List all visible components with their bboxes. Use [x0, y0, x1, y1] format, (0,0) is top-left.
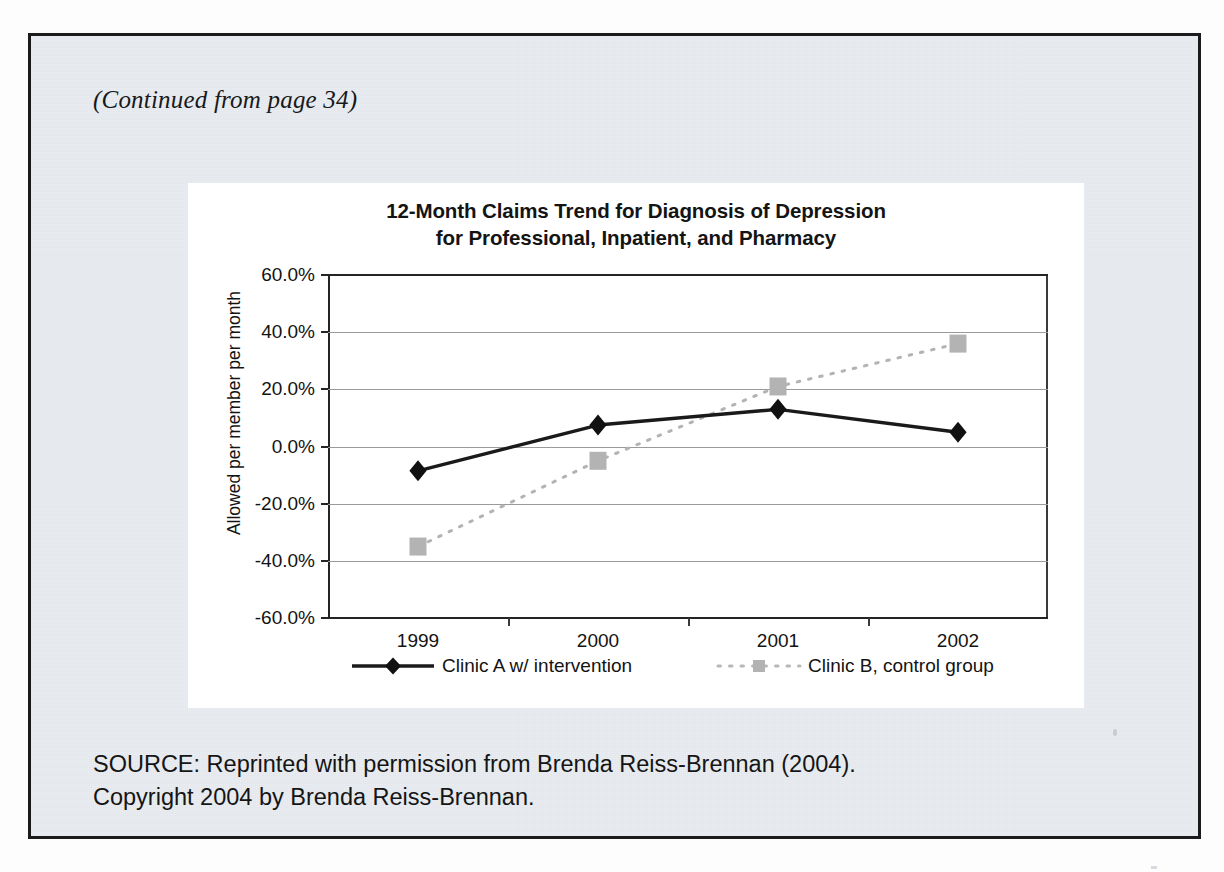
legend-key-square — [716, 655, 802, 677]
legend-label-clinic-a: Clinic A w/ intervention — [442, 655, 632, 677]
legend-entry-clinic-b: Clinic B, control group — [716, 653, 994, 679]
data-point-marker — [769, 399, 786, 420]
x-tick-label: 1999 — [397, 630, 439, 652]
x-tick-label: 2000 — [577, 630, 619, 652]
series-line — [418, 409, 958, 470]
x-tick-mark — [868, 618, 870, 626]
y-tick-mark — [321, 446, 328, 448]
legend-key-diamond — [350, 655, 436, 677]
legend-entry-clinic-a: Clinic A w/ intervention — [350, 653, 632, 679]
y-tick-mark — [321, 560, 328, 562]
series-clinic-a — [409, 399, 966, 481]
legend-label-clinic-b: Clinic B, control group — [808, 655, 994, 677]
y-axis-title: Allowed per member per month — [224, 263, 245, 563]
x-tick-mark — [688, 618, 690, 626]
continued-from-note: (Continued from page 34) — [93, 86, 357, 114]
y-tick-mark — [321, 617, 328, 619]
source-line-1: SOURCE: Reprinted with permission from B… — [93, 748, 1143, 781]
series-plot — [328, 275, 1048, 618]
data-point-marker — [770, 377, 787, 395]
chart-title-line-2: for Professional, Inpatient, and Pharmac… — [188, 224, 1084, 251]
source-line-2: Copyright 2004 by Brenda Reiss-Brennan. — [93, 781, 1143, 814]
y-tick-mark — [321, 331, 328, 333]
chart-title: 12-Month Claims Trend for Diagnosis of D… — [188, 197, 1084, 251]
data-point-marker — [949, 422, 966, 443]
x-tick-label: 2001 — [757, 630, 799, 652]
figure-box: (Continued from page 34) 12-Month Claims… — [28, 33, 1201, 839]
data-point-marker — [950, 335, 967, 353]
x-tick-mark — [508, 618, 510, 626]
data-point-marker — [590, 452, 607, 470]
y-tick-label: -20.0% — [255, 493, 315, 515]
y-tick-mark — [321, 274, 328, 276]
data-point-marker — [410, 538, 427, 556]
y-tick-label: -40.0% — [255, 550, 315, 572]
y-tick-label: 60.0% — [261, 264, 315, 286]
chart-legend: Clinic A w/ intervention Clinic B, contr… — [328, 653, 1058, 683]
chart-title-line-1: 12-Month Claims Trend for Diagnosis of D… — [188, 197, 1084, 224]
series-line — [418, 344, 958, 547]
y-tick-mark — [321, 503, 328, 505]
y-tick-label: 20.0% — [261, 378, 315, 400]
x-tick-label: 2002 — [937, 630, 979, 652]
y-tick-label: 0.0% — [272, 436, 315, 458]
data-point-marker — [409, 460, 426, 481]
y-tick-label: 40.0% — [261, 321, 315, 343]
y-tick-mark — [321, 388, 328, 390]
chart-panel: 12-Month Claims Trend for Diagnosis of D… — [188, 183, 1084, 708]
series-clinic-b — [410, 335, 967, 556]
scan-artifact-2 — [1151, 866, 1157, 869]
source-note: SOURCE: Reprinted with permission from B… — [93, 748, 1143, 814]
data-point-marker — [589, 415, 606, 436]
plot-area: 60.0%40.0%20.0%0.0%-20.0%-40.0%-60.0% 19… — [328, 275, 1048, 618]
y-tick-label: -60.0% — [255, 607, 315, 629]
scan-artifact — [1113, 729, 1117, 736]
scanned-page: (Continued from page 34) 12-Month Claims… — [0, 0, 1224, 872]
